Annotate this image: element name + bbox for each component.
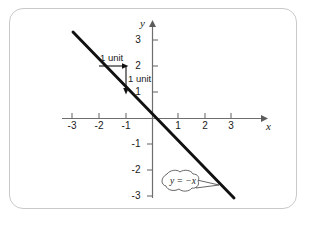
y-tick-label-2: 2 — [131, 60, 145, 71]
run-unit-label: 1 unit — [100, 52, 123, 63]
y-tick-label--2: -2 — [127, 164, 145, 175]
x-tick-label-2: 2 — [195, 120, 215, 131]
x-tick-label-3: 3 — [221, 120, 241, 131]
slope-indicator — [99, 66, 126, 90]
x-tick-label--3: -3 — [62, 120, 82, 131]
rise-unit-label: 1 unit — [128, 73, 151, 84]
graph-plot-area — [0, 0, 313, 225]
line-y-equals-negative-x — [73, 32, 234, 198]
x-axis — [62, 113, 262, 119]
x-tick-label--1: -1 — [116, 120, 136, 131]
x-tick-label--2: -2 — [89, 120, 109, 131]
y-tick-label-1: 1 — [131, 86, 145, 97]
equation-label: y = −x — [163, 176, 203, 186]
y-axis-name: y — [140, 17, 145, 29]
x-axis-name: x — [266, 120, 271, 132]
y-tick-label-3: 3 — [131, 34, 145, 45]
y-tick-label--1: -1 — [127, 138, 145, 149]
y-tick-label--3: -3 — [127, 190, 145, 201]
x-tick-label-1: 1 — [168, 120, 188, 131]
